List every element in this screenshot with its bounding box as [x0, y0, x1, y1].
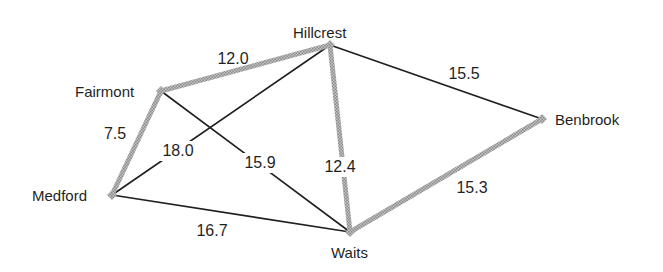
edge-weight-fairmont-hillcrest: 12.0 — [217, 50, 248, 67]
node-labels: FairmontHillcrestMedfordWaitsBenbrook — [32, 24, 620, 261]
edge-weight-medford-waits: 16.7 — [196, 222, 227, 239]
node-label-waits: Waits — [331, 244, 368, 261]
edge-weight-fairmont-medford: 7.5 — [104, 125, 126, 142]
edge-medford-waits — [112, 195, 350, 232]
edge-hillcrest-benbrook — [330, 45, 542, 119]
edge-weight-hillcrest-medford: 18.0 — [162, 142, 193, 159]
edge-labels: 12.07.512.415.315.518.015.916.7 — [104, 50, 488, 239]
edge-weight-label: 12.4 — [321, 157, 359, 177]
node-label-fairmont: Fairmont — [75, 83, 135, 100]
edge-weight-label: 15.9 — [241, 153, 279, 173]
edge-weight-label: 12.0 — [217, 50, 248, 67]
edge-weight-waits-benbrook: 15.3 — [456, 179, 487, 196]
node-label-benbrook: Benbrook — [555, 111, 620, 128]
edge-weight-label: 16.7 — [196, 222, 227, 239]
edge-weight-fairmont-waits: 15.9 — [244, 154, 275, 171]
edge-weight-label: 15.5 — [448, 65, 479, 82]
nodes — [107, 40, 547, 237]
edge-weight-hillcrest-benbrook: 15.5 — [448, 65, 479, 82]
edge-weight-hillcrest-waits: 12.4 — [324, 158, 355, 175]
edge-weight-label: 15.3 — [456, 179, 487, 196]
edge-weight-label: 7.5 — [104, 125, 126, 142]
town-network-graph: 12.07.512.415.315.518.015.916.7 Fairmont… — [0, 0, 663, 272]
node-label-medford: Medford — [32, 187, 87, 204]
node-label-hillcrest: Hillcrest — [293, 24, 347, 41]
edge-fairmont-medford-tree — [112, 91, 161, 195]
edge-waits-benbrook-tree — [350, 119, 542, 232]
edge-hillcrest-waits-tree — [330, 45, 350, 232]
edge-weight-label: 18.0 — [159, 141, 197, 161]
